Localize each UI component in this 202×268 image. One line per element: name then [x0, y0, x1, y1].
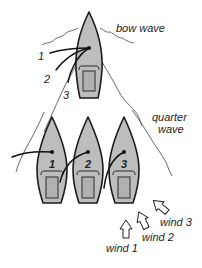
wind-1-label: wind 1 [106, 242, 138, 254]
top-boat-mast [87, 46, 91, 50]
sheet-label-1: 1 [38, 50, 44, 62]
sheet-label-3: 3 [63, 89, 70, 101]
top-boat [50, 12, 102, 98]
wind-3-label: wind 3 [160, 216, 193, 228]
sheet-label-2: 2 [43, 73, 50, 85]
wind-2-label: wind 2 [142, 231, 174, 243]
quarter-wave-label-line1: quarter [152, 111, 188, 123]
wind-2-arrow-icon [133, 209, 151, 230]
boat-3-label: 3 [121, 158, 127, 170]
wave-wake-right [102, 62, 142, 126]
wind-3-arrow-icon [149, 196, 171, 217]
sailing-diagram: bow wave quarter wave 1 2 3 1 2 3 wind 1… [0, 0, 202, 268]
bow-wave-label: bow wave [116, 22, 165, 34]
boat-1-label: 1 [49, 158, 55, 170]
boat-2-label: 2 [84, 158, 91, 170]
quarter-wave-label-line2: wave [158, 123, 184, 135]
wind-1-arrow-icon [120, 220, 132, 238]
top-boat-cockpit [83, 71, 95, 91]
